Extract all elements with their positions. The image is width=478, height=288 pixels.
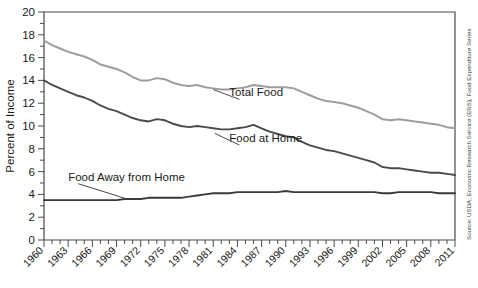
y-axis-title: Percent of Income [4,79,16,172]
x-axis-tick-label: 1969 [93,244,118,269]
y-axis-tick-label: 2 [29,211,35,223]
x-axis-tick-label: 1984 [214,244,239,269]
y-axis-tick-label: 10 [22,120,35,132]
y-axis-tick-label: 12 [22,97,35,109]
series-leader-line [78,184,126,199]
x-axis-tick-label: 1960 [20,244,45,269]
y-axis-tick-label: 14 [22,74,35,86]
x-axis-tick-label: 2008 [407,244,432,269]
series-label-food-away-from-home: Food Away from Home [68,171,185,183]
x-axis-tick-label: 1996 [311,244,336,269]
x-axis-tick-label: 1972 [117,244,142,269]
y-axis-tick-label: 18 [22,29,35,41]
x-axis-tick-label: 2002 [359,244,384,269]
x-axis-tick-label: 1993 [286,244,311,269]
y-axis-tick-label: 6 [29,166,35,178]
x-axis-tick-label: 1999 [335,244,360,269]
x-axis-tick-label: 1990 [262,244,287,269]
y-axis-tick-label: 4 [29,188,36,200]
series-label-food-at-home: Food at Home [229,132,302,144]
y-axis-tick-label: 20 [22,6,35,18]
chart-canvas: 0246810121416182019601963196619691972197… [0,0,478,288]
x-axis-tick-label: 1963 [45,244,70,269]
food-expenditure-chart: 0246810121416182019601963196619691972197… [0,0,478,288]
series-line-total-food [44,41,455,129]
y-axis-tick-label: 16 [22,52,35,64]
y-axis-tick-label: 0 [29,234,35,246]
x-axis-tick-label: 1987 [238,244,263,269]
x-axis-tick-label: 1975 [141,244,166,269]
x-axis-tick-label: 1981 [190,244,215,269]
series-label-total-food: Total Food [229,86,283,98]
x-axis-tick-label: 2011 [432,244,457,269]
y-axis-tick-label: 8 [29,143,35,155]
x-axis-tick-label: 2005 [383,244,408,269]
x-axis-tick-label: 1978 [165,244,190,269]
source-note: Source: USDA, Economic Research Service … [465,29,472,241]
x-axis-tick-label: 1966 [69,244,94,269]
